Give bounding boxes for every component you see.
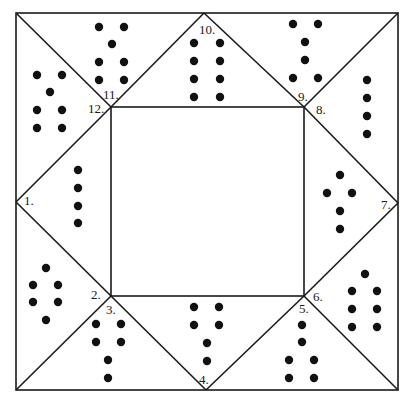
dot [289,20,297,28]
dot [336,207,344,215]
vertex-label: 6. [313,289,323,304]
dot [301,38,309,46]
dot [314,20,322,28]
region-left-middle [74,166,82,227]
dot [323,189,331,197]
dot [58,124,66,132]
frame-lines [16,13,398,390]
vertex-label: 12. [88,101,104,116]
dot [33,71,41,79]
edge-7-6 [304,203,398,296]
dot [74,166,82,174]
dot [285,374,293,382]
dot [216,39,224,47]
dot [373,323,381,331]
dot [298,321,306,329]
dot [92,338,100,346]
dot [363,94,371,102]
dot [120,76,128,84]
dot [203,339,211,347]
dot [215,321,223,329]
dot [95,58,103,66]
vertex-label: 5. [299,301,309,316]
dot [46,88,54,96]
dot [29,281,37,289]
vertex-label: 11. [103,87,119,102]
dot [216,75,224,83]
region-top-left [95,23,128,84]
dot [190,39,198,47]
vertex-label: 8. [316,102,326,117]
edge-1-12 [16,107,111,202]
dot [58,106,66,114]
dot [54,281,62,289]
edge-8-7 [304,107,398,203]
region-right-upper [363,76,371,138]
dot [348,323,356,331]
dot [42,316,50,324]
dot [117,338,125,346]
dot [33,124,41,132]
dot [363,130,371,138]
dot [216,57,224,65]
dot [190,321,198,329]
dot [104,374,112,382]
dot [92,320,100,328]
dot [120,58,128,66]
dot [310,356,318,364]
dot [108,40,116,48]
dot-frame-diagram: 1.2.3.4.5.6.7.8.9.10.11.12. [0,0,412,399]
dot [373,305,381,313]
dot [203,357,211,365]
vertex-label: 9. [298,89,308,104]
dot [117,320,125,328]
dot [190,93,198,101]
region-bottom-left [92,320,125,382]
dot [95,23,103,31]
dot [363,76,371,84]
dot [216,93,224,101]
dot [54,298,62,306]
dot [95,76,103,84]
vertex-label: 1. [24,193,34,208]
vertex-label: 4. [199,372,209,387]
dot [348,287,356,295]
dot [336,171,344,179]
dot [289,74,297,82]
dot [215,303,223,311]
region-left-lower [29,264,62,324]
dot-regions [29,20,381,382]
dot [361,270,369,278]
vertex-label: 2. [91,287,101,302]
region-top-right [289,20,322,82]
region-left-upper [33,71,66,132]
vertex-label: 3. [106,302,116,317]
dot [314,74,322,82]
region-bottom-right [285,321,318,382]
dot [285,356,293,364]
region-right-middle [323,171,356,233]
region-right-lower [348,270,381,331]
dot [33,106,41,114]
dot [190,75,198,83]
dot [301,56,309,64]
region-bottom-center [190,303,223,365]
dot [190,57,198,65]
dot [42,264,50,272]
dot [348,305,356,313]
dot [363,112,371,120]
inner-square [111,107,304,296]
dot [298,338,306,346]
dot [348,189,356,197]
dot [74,219,82,227]
dot [310,374,318,382]
dot [29,298,37,306]
dot [104,356,112,364]
region-top-center [190,39,224,101]
dot [58,71,66,79]
vertex-label: 10. [199,22,215,37]
dot [373,287,381,295]
dot [190,303,198,311]
dot [74,202,82,210]
vertex-label: 7. [381,197,391,212]
